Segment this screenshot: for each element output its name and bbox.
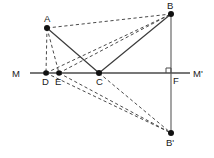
point-E xyxy=(56,70,62,76)
right-angle-marker-F xyxy=(166,68,171,73)
diagram-canvas: A B C D E F B' M M' xyxy=(0,0,214,158)
point-A xyxy=(44,25,50,31)
segment-A-C xyxy=(47,28,99,73)
segment-E-Bprime xyxy=(59,73,171,133)
label-D: D xyxy=(42,76,49,87)
segment-A-D xyxy=(46,28,47,73)
label-C: C xyxy=(96,76,103,87)
segment-A-B xyxy=(47,14,171,28)
label-A: A xyxy=(44,13,51,24)
segment-C-B xyxy=(99,14,171,73)
geometry-figure: A B C D E F B' M M' xyxy=(0,0,214,158)
label-E: E xyxy=(55,76,61,87)
label-B: B xyxy=(167,0,173,11)
label-Bprime: B' xyxy=(166,137,174,148)
segment-A-E xyxy=(47,28,59,73)
point-D xyxy=(43,70,49,76)
point-B xyxy=(168,11,174,17)
label-M-prime: M' xyxy=(193,68,203,79)
label-F: F xyxy=(173,75,179,86)
segment-D-Bprime xyxy=(46,73,171,133)
point-Bprime xyxy=(168,130,174,136)
segment-E-B xyxy=(59,14,171,73)
label-M: M xyxy=(12,68,20,79)
segment-C-Bprime xyxy=(99,73,171,133)
